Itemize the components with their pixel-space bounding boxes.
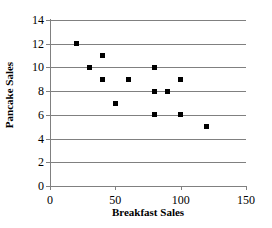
data-point — [152, 65, 157, 70]
y-axis-tick-label: 2 — [38, 154, 44, 170]
data-point — [100, 77, 105, 82]
y-axis-tick-mark — [46, 91, 50, 92]
y-axis-tick-mark — [46, 139, 50, 140]
y-axis-tick-mark — [46, 67, 50, 68]
x-axis-tick-label: 0 — [47, 192, 53, 208]
x-axis-tick-mark — [181, 186, 182, 190]
data-point — [126, 77, 131, 82]
y-axis-title: Pancake Sales — [0, 0, 18, 190]
gridline-y — [50, 67, 246, 68]
data-point — [74, 41, 79, 46]
scatter-chart: Pancake Sales 02468101214 Breakfast Sale… — [0, 0, 272, 228]
y-axis-tick-mark — [46, 162, 50, 163]
x-axis-tick-mark — [115, 186, 116, 190]
data-point — [152, 112, 157, 117]
data-point — [87, 65, 92, 70]
x-axis-tick-mark — [246, 186, 247, 190]
x-axis-title: Breakfast Sales — [50, 206, 246, 218]
gridline-y — [50, 20, 246, 21]
y-axis-tick-mark — [46, 115, 50, 116]
y-axis-title-label: Pancake Sales — [3, 62, 15, 128]
y-axis-tick-label: 0 — [38, 178, 44, 194]
y-axis-tick-label: 12 — [32, 36, 44, 52]
x-axis-tick-mark — [50, 186, 51, 190]
gridline-y — [50, 162, 246, 163]
gridline-y — [50, 91, 246, 92]
data-point — [113, 101, 118, 106]
plot-area: 02468101214 — [50, 20, 246, 186]
y-axis-tick-label: 8 — [38, 83, 44, 99]
y-axis-tick-label: 10 — [32, 59, 44, 75]
x-axis-tick-label: 100 — [172, 192, 190, 208]
y-axis-tick-label: 14 — [32, 12, 44, 28]
x-axis-line — [50, 186, 246, 187]
data-point — [204, 124, 209, 129]
data-point — [178, 77, 183, 82]
y-axis-tick-mark — [46, 44, 50, 45]
data-point — [152, 89, 157, 94]
data-point — [165, 89, 170, 94]
y-axis-tick-mark — [46, 20, 50, 21]
y-axis-tick-label: 6 — [38, 107, 44, 123]
data-point — [100, 53, 105, 58]
x-axis-tick-label: 50 — [109, 192, 121, 208]
data-point — [178, 112, 183, 117]
x-axis-tick-label: 150 — [237, 192, 255, 208]
gridline-y — [50, 115, 246, 116]
y-axis-tick-label: 4 — [38, 131, 44, 147]
gridline-y — [50, 44, 246, 45]
gridline-y — [50, 139, 246, 140]
